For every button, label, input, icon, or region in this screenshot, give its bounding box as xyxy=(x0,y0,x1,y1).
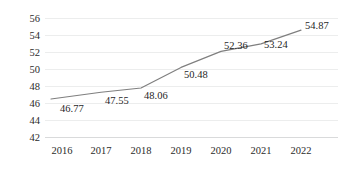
y-tick-label: 52 xyxy=(30,47,41,58)
chart-canvas: 56 54 52 50 48 46 44 42 2016 2017 2018 2… xyxy=(0,0,352,171)
x-tick-label: 2022 xyxy=(291,145,312,156)
data-label: 47.55 xyxy=(105,95,129,106)
line-chart: 56 54 52 50 48 46 44 42 2016 2017 2018 2… xyxy=(0,0,352,171)
y-tick-label: 46 xyxy=(30,98,41,109)
x-tick-label: 2018 xyxy=(131,145,152,156)
x-tick-label: 2021 xyxy=(251,145,272,156)
data-label: 50.48 xyxy=(184,69,208,80)
x-tick-label: 2019 xyxy=(171,145,192,156)
y-tick-label: 48 xyxy=(30,81,41,92)
y-tick-label: 50 xyxy=(30,64,41,75)
x-tick-label: 2016 xyxy=(52,145,73,156)
data-label: 53.24 xyxy=(264,39,288,50)
data-label: 52.36 xyxy=(224,40,248,51)
y-tick-label: 56 xyxy=(30,13,41,24)
data-label: 46.77 xyxy=(60,103,84,114)
y-tick-label: 42 xyxy=(30,132,41,143)
x-tick-label: 2017 xyxy=(91,145,112,156)
x-axis-tick-labels: 2016 2017 2018 2019 2020 2021 2022 xyxy=(52,145,312,156)
y-axis-tick-labels: 56 54 52 50 48 46 44 42 xyxy=(30,13,41,143)
data-label: 48.06 xyxy=(144,90,168,101)
data-label: 54.87 xyxy=(305,20,329,31)
y-tick-label: 54 xyxy=(30,30,41,41)
y-tick-label: 44 xyxy=(30,115,41,126)
x-tick-label: 2020 xyxy=(211,145,232,156)
